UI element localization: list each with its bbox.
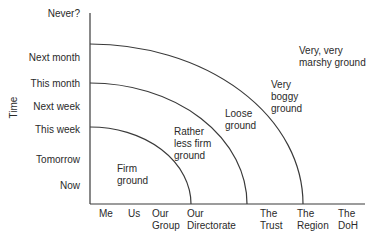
x-tick-me: Me	[99, 208, 113, 220]
x-tick-the-region: The Region	[297, 208, 329, 232]
region-loose-ground: Loose ground	[225, 108, 256, 132]
y-tick-never: Never?	[0, 8, 80, 20]
arc-less-firm-boundary	[90, 83, 247, 204]
region-very-boggy-ground: Very boggy ground	[271, 79, 302, 115]
y-tick-next-week: Next week	[0, 101, 80, 113]
x-tick-the-doh: The DoH	[338, 208, 358, 232]
y-tick-next-month: Next month	[0, 52, 80, 64]
ground-firmness-diagram: Time Never? Next month This month Next w…	[0, 0, 372, 240]
x-tick-us: Us	[128, 208, 140, 220]
region-rather-less-firm-ground: Rather less firm ground	[174, 126, 211, 162]
region-firm-ground: Firm ground	[117, 163, 148, 187]
y-tick-this-week: This week	[0, 124, 80, 136]
y-tick-now: Now	[0, 180, 80, 192]
y-tick-this-month: This month	[0, 78, 80, 90]
diagram-axes-and-arcs	[0, 0, 372, 240]
region-very-very-marshy-ground: Very, very marshy ground	[299, 45, 366, 69]
x-tick-our-directorate: Our Directorate	[187, 208, 236, 232]
x-tick-the-trust: The Trust	[260, 208, 282, 232]
x-tick-our-group: Our Group	[152, 208, 180, 232]
y-tick-tomorrow: Tomorrow	[0, 154, 80, 166]
